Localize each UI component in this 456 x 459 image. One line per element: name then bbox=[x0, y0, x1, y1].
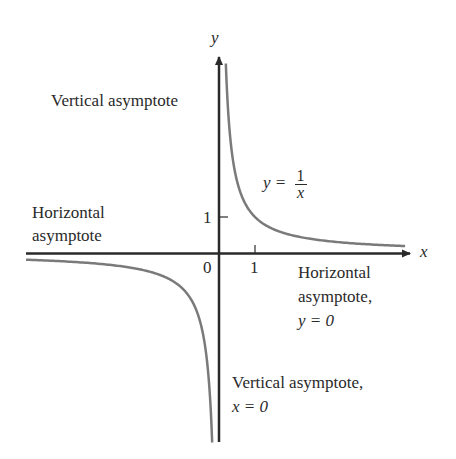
horizontal-asymptote-right-line1: Horizontal bbox=[298, 263, 371, 282]
hyperbola-branch-positive bbox=[226, 64, 405, 247]
origin-label: 0 bbox=[203, 258, 212, 277]
y-tick-label: 1 bbox=[203, 208, 212, 227]
horizontal-asymptote-left-line1: Horizontal bbox=[32, 203, 105, 222]
x-axis-label: x bbox=[420, 242, 428, 261]
x-tick-label: 1 bbox=[250, 258, 259, 277]
equation-label: y = 1 x bbox=[263, 168, 307, 201]
vertical-asymptote-bottom-line2: x = 0 bbox=[232, 397, 268, 416]
y-axis-label: y bbox=[211, 28, 219, 47]
equation-fraction: 1 x bbox=[295, 168, 307, 201]
equation-numerator: 1 bbox=[295, 168, 307, 185]
equation-lhs: y = bbox=[263, 173, 286, 192]
horizontal-asymptote-left-line2: asymptote bbox=[32, 226, 102, 245]
horizontal-asymptote-right-line2: asymptote, bbox=[298, 287, 372, 306]
vertical-asymptote-bottom-line1: Vertical asymptote, bbox=[232, 373, 363, 392]
vertical-asymptote-top-label: Vertical asymptote bbox=[51, 91, 178, 110]
hyperbola-branch-negative bbox=[26, 260, 212, 443]
horizontal-asymptote-right-line3: y = 0 bbox=[298, 311, 334, 330]
equation-denominator: x bbox=[295, 185, 307, 201]
